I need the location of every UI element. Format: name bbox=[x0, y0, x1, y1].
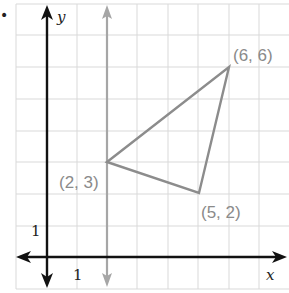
vertical-line-x2 bbox=[102, 5, 112, 287]
x-axis bbox=[16, 251, 287, 263]
vertex-label-2-3: (2, 3) bbox=[59, 173, 99, 192]
x-axis-label: x bbox=[266, 266, 275, 284]
bullet-marker: • bbox=[0, 7, 8, 23]
vertex-label-5-2: (5, 2) bbox=[201, 203, 241, 222]
vertex-label-6-6: (6, 6) bbox=[233, 46, 273, 65]
y-tick-label: 1 bbox=[31, 222, 41, 240]
y-axis-label: y bbox=[56, 8, 66, 26]
y-axis bbox=[41, 5, 53, 288]
coordinate-plane: • y x 1 1 bbox=[0, 0, 289, 293]
x-tick-label: 1 bbox=[73, 266, 83, 284]
